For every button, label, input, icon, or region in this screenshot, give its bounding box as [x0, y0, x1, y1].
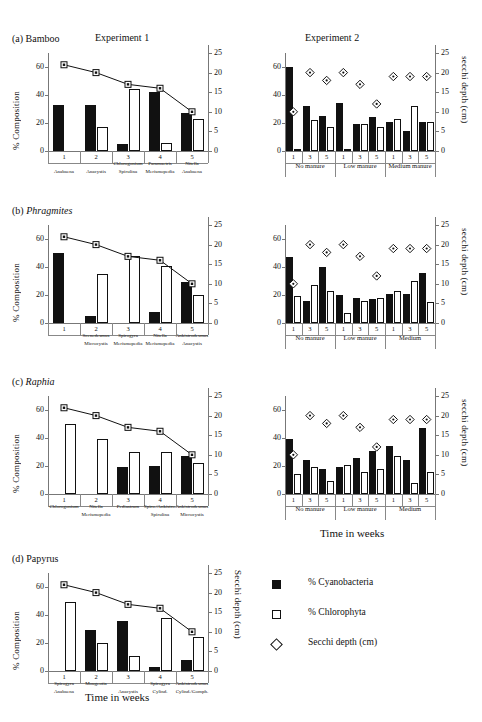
category-number: 3 [352, 496, 369, 503]
y-axis-label-right-a: secchi depth (cm) [460, 56, 470, 158]
secchi-depth-series [48, 396, 210, 496]
y-tick-label-right: 20 [441, 69, 459, 77]
y-tick-label-left: 60 [22, 235, 44, 243]
legend: % Cyanobacteria % Chlorophyta Secchi dep… [268, 576, 468, 666]
category-number: 5 [318, 325, 335, 332]
group-separator [435, 494, 436, 520]
experiment-1-header-a: Experiment 1 [95, 32, 149, 43]
group-separator [335, 151, 336, 177]
y-tick-label-right: 20 [214, 412, 232, 420]
panel-b-name: Phragmites [26, 205, 72, 216]
y-tick-label-left: 20 [259, 291, 281, 299]
category-number: 5 [176, 153, 208, 160]
plot-b-exp2: 02040600510152025135135135No manureLow m… [285, 225, 435, 323]
category-number: 5 [176, 325, 208, 332]
category-number: 1 [285, 153, 302, 160]
category-number: 5 [418, 496, 435, 503]
y-tick-label-right: 0 [214, 147, 232, 155]
y-tick-label-left: 60 [259, 235, 281, 243]
y-tick-label-right: 15 [441, 431, 459, 439]
category-number: 5 [418, 325, 435, 332]
category-number: 5 [318, 153, 335, 160]
y-axis-label-left-b: % Composition [11, 230, 21, 322]
y-tick-label-right: 25 [214, 221, 232, 229]
secchi-depth-series [48, 225, 210, 325]
panel-a-tag: (a) [12, 33, 23, 44]
category-number: 1 [48, 496, 80, 503]
category-number: 3 [302, 325, 319, 332]
y-tick-label-right: 5 [441, 299, 459, 307]
category-number: 1 [335, 496, 352, 503]
category-number: 3 [112, 673, 144, 680]
y-tick-label-right: 5 [214, 470, 232, 478]
y-tick-label-left: 60 [259, 406, 281, 414]
category-number: 3 [402, 153, 419, 160]
category-number: 3 [302, 153, 319, 160]
y-tick-label-right: 25 [214, 49, 232, 57]
panel-d-title: (d) Papyrus [12, 553, 58, 564]
y-tick-label-right: 20 [441, 412, 459, 420]
secchi-depth-line [64, 65, 192, 112]
category-number: 1 [385, 496, 402, 503]
y-tick-label-left: 40 [22, 434, 44, 442]
taxon-label-row2: Cylind./Gomph. [170, 689, 214, 695]
y-tick-label-left: 20 [22, 639, 44, 647]
y-tick-label-right: 5 [214, 647, 232, 655]
y-tick-label-right: 25 [214, 569, 232, 577]
y-axis-label-right-c: secchi depth (cm) [460, 399, 470, 501]
group-separator [435, 323, 436, 349]
legend-label-secchi-depth: Secchi depth (cm) [308, 637, 377, 647]
x-axis-title-exp2: Time in weeks [320, 527, 384, 539]
category-number: 1 [335, 325, 352, 332]
panel-a-title: (a) Bamboo [12, 33, 60, 44]
y-tick-label-right: 10 [214, 108, 232, 116]
category-number: 5 [368, 153, 385, 160]
taxon-label-row2: Anacystis [170, 341, 214, 347]
manure-group-label: Medium [385, 334, 435, 342]
y-tick-label-left: 0 [259, 490, 281, 498]
group-separator [385, 151, 386, 177]
y-tick-label-right: 5 [441, 127, 459, 135]
y-axis-label-left-c: % Composition [11, 401, 21, 493]
y-tick-label-left: 0 [259, 147, 281, 155]
taxon-label-row2: Anabaena [42, 689, 86, 695]
y-tick-label-left: 0 [259, 319, 281, 327]
category-number: 3 [352, 325, 369, 332]
category-number: 4 [144, 153, 176, 160]
category-number: 1 [48, 153, 80, 160]
secchi-depth-series [285, 53, 437, 153]
y-tick-label-left: 20 [22, 462, 44, 470]
group-separator [435, 151, 436, 177]
category-number: 5 [176, 673, 208, 680]
y-axis-label-right-d: Secchi depth (cm) [233, 570, 243, 675]
panel-c: (c) Raphia % Composition secchi depth (c… [0, 371, 482, 546]
y-tick-label-right: 15 [214, 431, 232, 439]
plot-b-exp1: 0204060051015202512345ScenedesmusSpirogy… [48, 225, 208, 323]
y-tick-label-right: 10 [214, 628, 232, 636]
y-tick-label-right: 20 [214, 589, 232, 597]
y-tick-label-right: 25 [214, 392, 232, 400]
y-tick-label-right: 15 [214, 608, 232, 616]
y-tick-label-right: 10 [214, 280, 232, 288]
y-axis-label-left-a: % Composition [11, 58, 21, 150]
category-number: 1 [48, 325, 80, 332]
y-tick-label-left: 40 [259, 434, 281, 442]
legend-icon-open-diamond [270, 638, 283, 651]
manure-group-label: Low manure [335, 334, 385, 342]
y-tick-label-right: 25 [441, 49, 459, 57]
panel-d-tag: (d) [12, 553, 24, 564]
y-tick-label-left: 20 [22, 119, 44, 127]
category-number: 1 [285, 496, 302, 503]
legend-icon-filled-square [272, 580, 281, 589]
category-number: 2 [80, 325, 112, 332]
y-tick-label-right: 20 [441, 241, 459, 249]
manure-group-label: Low manure [335, 505, 385, 513]
secchi-depth-line [64, 237, 192, 284]
y-tick-label-right: 25 [441, 392, 459, 400]
secchi-depth-series [285, 396, 437, 496]
legend-label-chlorophyta: % Chlorophyta [308, 607, 366, 617]
legend-label-cyanobacteria: % Cyanobacteria [308, 577, 373, 587]
taxon-label-row2: Anabaena [170, 169, 214, 175]
category-number: 3 [352, 153, 369, 160]
panel-b-tag: (b) [12, 205, 24, 216]
